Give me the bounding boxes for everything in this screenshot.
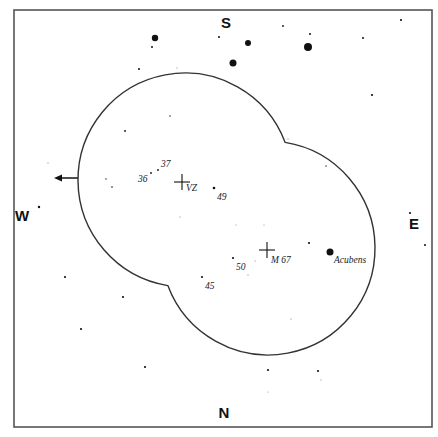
star-dot bbox=[38, 206, 40, 208]
star-dot bbox=[267, 369, 269, 371]
star-dot bbox=[151, 46, 153, 48]
star-dot bbox=[424, 244, 426, 246]
star-dot bbox=[400, 19, 402, 21]
star-dot bbox=[362, 37, 364, 39]
star-label: 50 bbox=[236, 262, 246, 272]
star-dot bbox=[320, 379, 321, 380]
star-dot bbox=[290, 318, 291, 319]
labeled-star-dot bbox=[157, 169, 159, 171]
star-dot bbox=[245, 40, 251, 46]
labeled-star-dot bbox=[232, 257, 234, 259]
star-dot bbox=[309, 33, 311, 35]
labeled-star-dot bbox=[327, 249, 334, 256]
labeled-stars: Acubens3637495045 bbox=[137, 159, 366, 291]
labeled-star-dot bbox=[150, 172, 152, 174]
star-dot bbox=[47, 162, 48, 163]
star-dot bbox=[409, 212, 411, 214]
star-dot bbox=[287, 138, 288, 139]
star-label: 37 bbox=[160, 159, 172, 169]
object-markers: VZM 67 bbox=[174, 174, 292, 265]
star-dot bbox=[64, 276, 66, 278]
direction-west-label: W bbox=[15, 207, 30, 224]
star-dot bbox=[111, 186, 113, 188]
direction-north-label: N bbox=[219, 404, 230, 421]
star-field bbox=[38, 19, 426, 393]
star-dot bbox=[138, 68, 140, 70]
star-dot bbox=[152, 35, 158, 41]
star-dot bbox=[247, 274, 248, 275]
chart-frame bbox=[14, 10, 432, 427]
star-dot bbox=[282, 25, 284, 27]
west-arrow-icon bbox=[54, 175, 78, 182]
star-dot bbox=[218, 36, 220, 38]
direction-south-label: S bbox=[221, 14, 231, 31]
field-of-view-outline bbox=[78, 73, 375, 355]
star-dot bbox=[268, 392, 269, 393]
star-label: Acubens bbox=[333, 255, 366, 265]
star-dot bbox=[325, 165, 326, 166]
star-dot bbox=[264, 225, 265, 226]
star-dot bbox=[230, 60, 237, 67]
marker-label: M 67 bbox=[270, 255, 292, 265]
direction-east-label: E bbox=[409, 215, 419, 232]
star-dot bbox=[236, 225, 237, 226]
star-dot bbox=[144, 366, 146, 368]
star-dot bbox=[304, 43, 312, 51]
star-dot bbox=[176, 67, 177, 68]
star-dot bbox=[308, 242, 310, 244]
star-dot bbox=[371, 94, 373, 96]
marker-label: VZ bbox=[186, 183, 198, 193]
star-dot bbox=[124, 130, 126, 132]
star-label: 45 bbox=[205, 281, 215, 291]
star-dot bbox=[179, 216, 180, 217]
labeled-star-dot bbox=[213, 187, 216, 190]
star-dot bbox=[122, 296, 124, 298]
star-dot bbox=[80, 328, 82, 330]
star-dot bbox=[169, 115, 170, 116]
star-label: 36 bbox=[137, 174, 148, 184]
finder-chart: Acubens3637495045 VZM 67 S N W E bbox=[0, 0, 438, 437]
star-dot bbox=[105, 178, 106, 179]
star-dot bbox=[317, 370, 319, 372]
labeled-star-dot bbox=[201, 276, 203, 278]
field-outline-path bbox=[78, 73, 375, 355]
star-label: 49 bbox=[217, 192, 227, 202]
star-dot bbox=[254, 260, 255, 261]
